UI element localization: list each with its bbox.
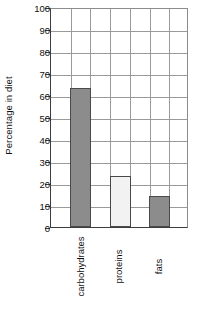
y-axis-tick-label: 70 <box>8 69 50 80</box>
y-axis-tick-label: 10 <box>8 201 50 212</box>
x-axis-label-text: carbohydrates <box>74 236 85 296</box>
y-axis-tick-label: 60 <box>8 91 50 102</box>
y-axis-tick-label: 40 <box>8 135 50 146</box>
bar-fats <box>149 196 170 227</box>
y-axis-tick-label: 50 <box>8 113 50 124</box>
bars-group <box>51 9 187 227</box>
bar-chart: Percentage in diet 010203040506070809010… <box>0 0 202 312</box>
y-axis-tick-label: 30 <box>8 157 50 168</box>
y-axis-tick-label: 0 <box>8 223 50 234</box>
x-axis-label-proteins: proteins <box>113 231 126 309</box>
bar-carbohydrates <box>70 88 91 227</box>
bar-proteins <box>110 176 131 227</box>
x-axis-label-text: proteins <box>114 250 125 284</box>
x-axis-labels: carbohydratesproteinsfats <box>50 231 188 309</box>
x-axis-label-fats: fats <box>152 231 165 309</box>
y-axis-tick-label: 20 <box>8 179 50 190</box>
plot-area <box>50 8 188 228</box>
y-axis-tick-label: 100 <box>8 3 50 14</box>
y-axis-tick-label: 90 <box>8 25 50 36</box>
x-axis-label-text: fats <box>153 259 164 274</box>
y-axis-tick-label: 80 <box>8 47 50 58</box>
x-axis-label-carbohydrates: carbohydrates <box>73 231 86 309</box>
